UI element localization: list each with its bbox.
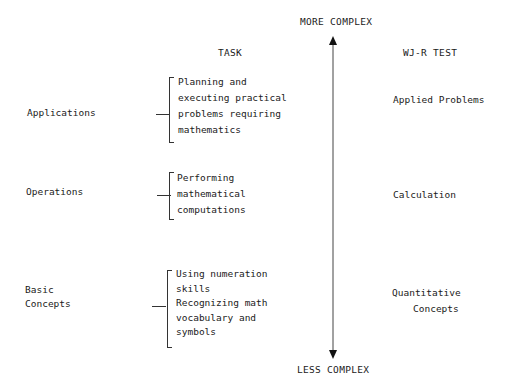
bracket-operations	[169, 172, 174, 220]
task-basic-concepts: Using numeration skills Recognizing math…	[176, 267, 268, 340]
category-operations: Operations	[26, 186, 83, 197]
category-applications: Applications	[27, 107, 96, 118]
bracket-tick-applications	[156, 114, 170, 115]
bracket-applications	[169, 77, 174, 143]
axis-top-label: MORE COMPLEX	[300, 16, 372, 27]
test-calculation: Calculation	[393, 189, 456, 200]
bracket-tick-operations	[157, 195, 171, 196]
task-operations: Performing mathematical computations	[177, 170, 246, 218]
test-header: WJ-R TEST	[403, 47, 457, 58]
test-quantitative-concepts: Quantitative Concepts	[392, 285, 461, 317]
category-basic-concepts: Basic Concepts	[25, 283, 71, 311]
bracket-basic-concepts	[167, 270, 172, 348]
arrow-down-icon	[329, 350, 337, 359]
bracket-tick-basic-concepts	[152, 306, 166, 307]
task-header: TASK	[218, 47, 242, 58]
task-applications: Planning and executing practical problem…	[178, 74, 287, 138]
test-applied-problems: Applied Problems	[393, 94, 485, 105]
axis-bottom-label: LESS COMPLEX	[297, 364, 369, 375]
arrow-up-icon	[329, 36, 337, 45]
